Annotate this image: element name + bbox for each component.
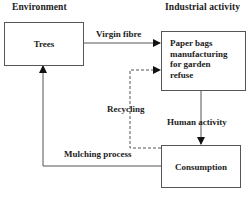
node-paper-bags-line-4: refuse — [170, 70, 245, 81]
node-paper-bags: Paper bags manufacturing for garden refu… — [161, 31, 246, 91]
node-trees: Trees — [4, 22, 84, 66]
node-paper-bags-line-1: Paper bags — [170, 38, 245, 49]
node-paper-bags-line-2: manufacturing — [170, 49, 245, 60]
edge-label-recycling: Recycling — [107, 104, 145, 114]
node-consumption-label: Consumption — [175, 162, 227, 172]
edge-label-human-activity: Human activity — [167, 117, 227, 127]
edge-label-virgin-fibre: Virgin fibre — [96, 29, 141, 39]
edge-label-mulching-process: Mulching process — [64, 149, 132, 159]
heading-industrial-activity: Industrial activity — [165, 2, 240, 12]
heading-environment: Environment — [12, 2, 67, 12]
node-trees-label: Trees — [34, 39, 55, 49]
node-paper-bags-line-3: for garden — [170, 59, 245, 70]
node-consumption: Consumption — [161, 145, 241, 188]
